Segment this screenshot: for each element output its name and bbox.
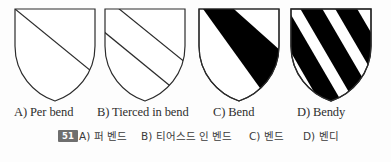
korean-option-d: D) 벤디 bbox=[303, 128, 339, 144]
korean-answer-row: 51 A) 퍼 벤드 B) 티어스드 인 벤드 C) 벤드 D) 벤디 bbox=[0, 128, 391, 150]
caption-bend: C) Bend bbox=[213, 103, 254, 121]
english-caption-row: A) Per bend B) Tierced in bend C) Bend D… bbox=[0, 103, 391, 123]
shield-bendy bbox=[288, 6, 374, 104]
shield-tierced-in-bend-graphic bbox=[102, 6, 188, 104]
shield-bend-graphic bbox=[196, 6, 282, 104]
shield-per-bend bbox=[12, 6, 98, 104]
shield-per-bend-graphic bbox=[12, 6, 98, 104]
shield-outline bbox=[15, 9, 95, 101]
shield-tierced-in-bend bbox=[102, 6, 188, 104]
korean-option-a: A) 퍼 벤드 bbox=[79, 128, 127, 144]
question-number-badge: 51 bbox=[58, 130, 78, 142]
shield-outline bbox=[105, 9, 185, 101]
heraldry-figure: A) Per bend B) Tierced in bend C) Bend D… bbox=[0, 0, 391, 162]
korean-option-b: B) 티어스드 인 벤드 bbox=[141, 128, 232, 144]
shield-bendy-graphic bbox=[288, 6, 374, 104]
shield-row bbox=[0, 6, 391, 104]
shield-bend bbox=[196, 6, 282, 104]
caption-tierced-in-bend: B) Tierced in bend bbox=[97, 103, 189, 121]
korean-option-c: C) 벤드 bbox=[249, 128, 284, 144]
caption-bendy: D) Bendy bbox=[297, 103, 345, 121]
caption-per-bend: A) Per bend bbox=[14, 103, 73, 121]
